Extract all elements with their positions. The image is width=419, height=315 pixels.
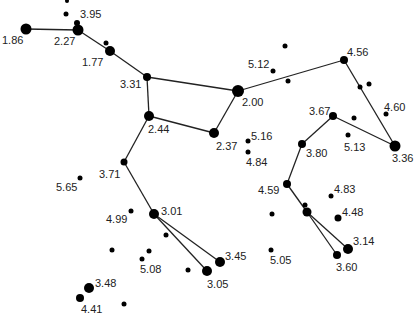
constellation-line [124, 162, 154, 214]
star-dot [335, 215, 342, 222]
star-magnitude-label: 4.59 [258, 184, 279, 196]
star-magnitude-label: 4.41 [81, 303, 102, 315]
star-magnitude-label: 4.84 [246, 156, 267, 168]
star-magnitude-label: 5.16 [251, 130, 272, 142]
star-dot [283, 44, 288, 49]
star-magnitude-label: 5.13 [344, 141, 365, 153]
star-magnitude-label: 3.71 [99, 168, 120, 180]
star-magnitude-label: 3.95 [80, 8, 101, 20]
star-dot [390, 141, 401, 152]
star-chart: 1.862.273.951.773.312.002.442.375.125.16… [0, 0, 419, 315]
constellation-line [124, 116, 149, 162]
star-dot [122, 302, 127, 307]
star-magnitude-label: 4.48 [342, 206, 363, 218]
star-dot [269, 248, 274, 253]
star-dot [110, 248, 115, 253]
star-magnitude-label: 2.27 [54, 35, 75, 47]
star-dot [65, 0, 69, 3]
star-dot [76, 294, 84, 302]
star-magnitude-label: 5.12 [248, 58, 269, 70]
star-magnitude-label: 3.31 [120, 78, 141, 90]
star-dot [64, 12, 69, 17]
star-magnitude-label: 3.48 [95, 277, 116, 289]
star-magnitude-label: 2.37 [216, 140, 237, 152]
star-magnitude-label: 4.56 [347, 46, 368, 58]
star-magnitude-label: 3.01 [161, 205, 182, 217]
star-dot [271, 69, 276, 74]
star-dot [246, 150, 251, 155]
star-dot [143, 73, 151, 81]
star-magnitude-label: 3.36 [392, 152, 413, 164]
star-magnitude-label: 4.99 [106, 213, 127, 225]
star-dot [367, 82, 372, 87]
constellation-line [214, 91, 238, 133]
star-dot [121, 159, 128, 166]
star-dot [78, 176, 83, 181]
star-dot [164, 233, 169, 238]
star-dot [303, 208, 312, 217]
star-dot [333, 251, 341, 259]
star-dot [21, 24, 32, 35]
star-magnitude-label: 3.05 [207, 278, 228, 290]
constellation-line [302, 116, 333, 144]
star-dot [286, 79, 291, 84]
star-dot [74, 20, 80, 26]
star-dot [73, 25, 84, 36]
star-magnitude-label: 1.86 [2, 34, 23, 46]
star-dot [346, 133, 351, 138]
star-magnitude-label: 5.65 [56, 181, 77, 193]
star-magnitude-label: 1.77 [82, 56, 103, 68]
star-dot [358, 85, 363, 90]
star-magnitude-label: 5.05 [270, 254, 291, 266]
star-dot [140, 257, 145, 262]
star-dot [104, 41, 109, 46]
star-dot [246, 139, 251, 144]
star-dot [144, 111, 154, 121]
star-magnitude-label: 3.67 [309, 105, 330, 117]
constellation-line [307, 212, 337, 255]
constellation-line [154, 214, 220, 262]
constellation-line [287, 184, 307, 212]
star-magnitude-label: 4.83 [334, 183, 355, 195]
star-dot [84, 283, 94, 293]
star-dot [149, 209, 159, 219]
star-dot [105, 46, 115, 56]
star-dot [147, 249, 152, 254]
star-dot [202, 266, 212, 276]
star-magnitude-label: 2.44 [148, 123, 169, 135]
constellation-line [287, 144, 302, 184]
star-dot [352, 116, 357, 121]
star-magnitude-label: 3.80 [306, 147, 327, 159]
star-dot [186, 268, 191, 273]
constellation-line [78, 30, 110, 51]
star-dot [270, 212, 275, 217]
star-dot [209, 128, 219, 138]
constellation-line [26, 29, 78, 30]
star-magnitude-label: 3.14 [353, 235, 374, 247]
star-dot [283, 180, 291, 188]
star-dot [329, 194, 334, 199]
star-magnitude-label: 3.60 [336, 261, 357, 273]
star-magnitude-label: 3.45 [225, 250, 246, 262]
constellation-line [147, 77, 149, 116]
constellation-line [110, 51, 147, 77]
constellation-line [147, 77, 238, 91]
star-dot [303, 203, 308, 208]
star-magnitude-label: 5.08 [140, 263, 161, 275]
star-dot [129, 209, 134, 214]
constellation-line [154, 214, 207, 271]
star-dot [298, 140, 306, 148]
star-dot [215, 257, 225, 267]
star-magnitude-label: 2.00 [242, 96, 263, 108]
star-magnitude-label: 4.60 [384, 101, 405, 113]
star-dot [343, 244, 353, 254]
